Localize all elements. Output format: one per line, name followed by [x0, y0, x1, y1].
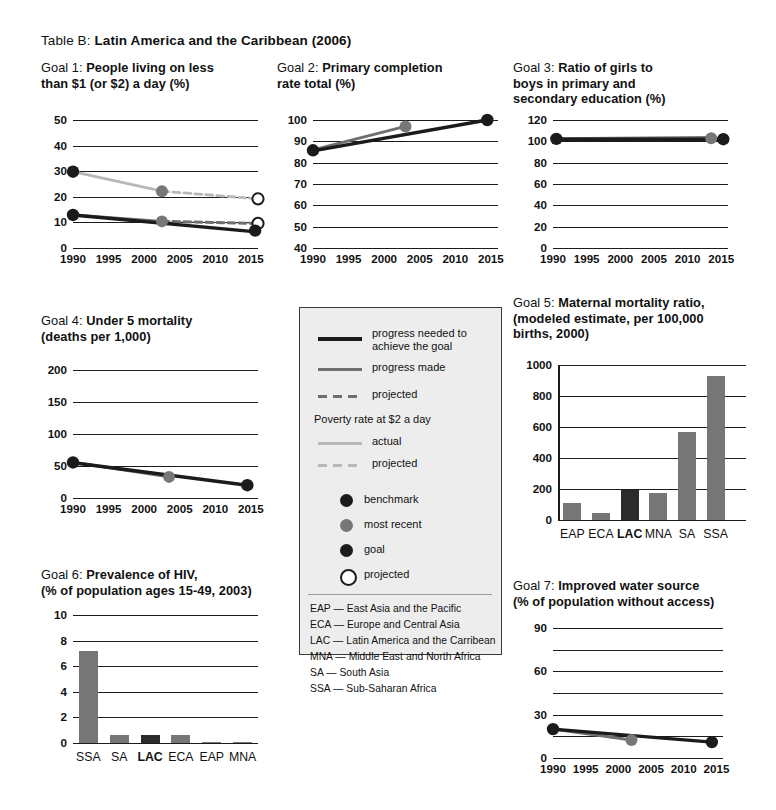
bar-sa: [678, 432, 696, 520]
y-axis-tick-label: 60: [277, 198, 307, 211]
data-point-goal: [241, 479, 253, 491]
legend-progress-needed-swatch: [318, 337, 362, 341]
legend-poverty-actual-swatch: [318, 442, 362, 445]
legend-abbreviation: SA — South Asia: [310, 667, 389, 678]
y-axis-tick-label: 8: [41, 634, 67, 647]
bar-lac: [141, 735, 160, 743]
series-layer: [553, 628, 735, 770]
data-point-benchmark: [307, 144, 319, 156]
chart-title-line: Goal 1: People living on less: [41, 60, 276, 76]
goal-label: Goal 4:: [41, 313, 86, 328]
x-axis-tick-label: ECA: [587, 527, 616, 541]
legend-marker-projected-label: projected: [364, 568, 409, 580]
data-point-benchmark: [547, 723, 559, 735]
y-axis-tick-label: 4: [41, 685, 67, 698]
y-axis-tick-label: 6: [41, 659, 67, 672]
y-axis-tick-label: 0: [514, 513, 552, 526]
series-line: [162, 191, 258, 199]
y-axis-tick-label: 80: [517, 156, 547, 169]
chart-title-text: Primary completion: [322, 60, 442, 75]
y-axis-tick-label: 10: [41, 608, 67, 621]
goal-label: Goal 7:: [513, 578, 558, 593]
bar-sa: [110, 735, 129, 743]
y-axis-tick-label: 800: [514, 389, 552, 402]
chart-goal5: 02004006008001000EAPECALACMNASASSA: [558, 365, 730, 520]
y-axis-tick-label: 20: [517, 220, 547, 233]
legend-marker-benchmark-dot: [340, 494, 353, 507]
chart-title-line: Goal 6: Prevalence of HIV,: [41, 567, 311, 583]
legend-abbreviation: LAC — Latin America and the Carribean: [310, 635, 496, 646]
gridline: [558, 520, 746, 521]
x-axis-tick-label: LAC: [615, 527, 644, 541]
x-axis-tick-label: SSA: [73, 750, 104, 764]
chart-title-text: Under 5 mortality: [86, 313, 192, 328]
y-axis-tick-label: 20: [39, 190, 67, 203]
chart-title-goal4: Goal 4: Under 5 mortality(deaths per 1,0…: [41, 313, 291, 344]
chart-title-text: (modeled estimate, per 100,000: [513, 311, 704, 326]
y-axis-tick-label: 40: [39, 139, 67, 152]
chart-title-line: births, 2000): [513, 326, 775, 342]
chart-title-line: Goal 5: Maternal mortality ratio,: [513, 295, 775, 311]
legend-progress-made-swatch: [318, 368, 362, 371]
legend-marker-most-recent-dot: [340, 519, 353, 532]
y-axis-tick-label: 50: [39, 113, 67, 126]
legend-marker-goal-dot: [340, 544, 353, 557]
gridline: [73, 692, 258, 693]
y-axis-tick-label: 90: [521, 621, 547, 634]
series-layer: [313, 120, 510, 260]
chart-title-goal3: Goal 3: Ratio of girls toboys in primary…: [513, 60, 763, 107]
data-point-most-recent: [625, 734, 637, 746]
y-axis-tick-label: 120: [517, 113, 547, 126]
chart-title-line: boys in primary and: [513, 76, 763, 92]
gridline: [73, 743, 258, 744]
bar-eap: [563, 503, 581, 520]
legend-abbreviation: SSA — Sub-Saharan Africa: [310, 683, 437, 694]
chart-title-line: Goal 3: Ratio of girls to: [513, 60, 763, 76]
goal-label: Goal 2:: [277, 60, 322, 75]
chart-title-text: Prevalence of HIV,: [86, 567, 197, 582]
y-axis-tick-label: 60: [521, 664, 547, 677]
chart-title-text: Improved water source: [558, 578, 699, 593]
chart-title-text: Maternal mortality ratio,: [558, 295, 704, 310]
chart-title-text: than $1 (or $2) a day (%): [41, 76, 189, 91]
goal-label: Goal 5:: [513, 295, 558, 310]
y-axis-tick-label: 90: [277, 134, 307, 147]
chart-title-line: Goal 7: Improved water source: [513, 578, 776, 594]
table-label: Table B:: [41, 33, 91, 48]
y-axis-tick-label: 100: [277, 113, 307, 126]
data-point-goal: [481, 114, 493, 126]
y-axis-tick-label: 40: [517, 198, 547, 211]
legend-abbreviation: ECA — Europe and Central Asia: [310, 619, 460, 630]
y-axis-tick-label: 150: [37, 395, 67, 408]
x-axis-tick-label: SA: [104, 750, 135, 764]
table-title-text: Latin America and the Caribbean (2006): [94, 33, 351, 48]
legend-abbreviation: EAP — East Asia and the Pacific: [310, 603, 461, 614]
x-axis-tick-label: SA: [673, 527, 702, 541]
bar-mna: [233, 742, 252, 743]
legend-marker-projected-dot: [340, 569, 357, 586]
chart-title-line: (deaths per 1,000): [41, 329, 291, 345]
x-axis-tick-label: ECA: [166, 750, 197, 764]
data-point-most-recent: [705, 132, 717, 144]
y-axis-tick-label: 600: [514, 420, 552, 433]
data-point-most-recent: [163, 471, 175, 483]
data-point-projected: [252, 193, 263, 204]
x-axis-tick-label: SSA: [701, 527, 730, 541]
gridline: [73, 717, 258, 718]
chart-goal3: 020406080100120199019952000200520102015: [553, 120, 728, 248]
legend-marker-benchmark-label: benchmark: [364, 493, 418, 505]
x-axis-tick-label: MNA: [644, 527, 673, 541]
chart-title-line: Goal 2: Primary completion: [277, 60, 512, 76]
chart-title-line: (% of population without access): [513, 594, 776, 610]
y-axis-tick-label: 50: [37, 459, 67, 472]
y-axis-tick-label: 30: [39, 164, 67, 177]
chart-title-text: (deaths per 1,000): [41, 329, 151, 344]
legend-poverty-actual-label: actual: [372, 435, 401, 447]
chart-title-goal6: Goal 6: Prevalence of HIV,(% of populati…: [41, 567, 311, 598]
goal-label: Goal 3:: [513, 60, 558, 75]
chart-goal1: 01020304050199019952000200520102015: [73, 120, 258, 248]
y-axis-tick-label: 400: [514, 451, 552, 464]
gridline: [558, 365, 746, 366]
bar-eca: [171, 735, 190, 743]
chart-goal7: 0306090199019952000200520102015: [553, 628, 723, 758]
